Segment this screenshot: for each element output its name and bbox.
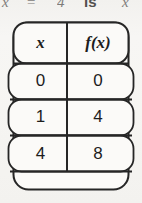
worksheet-figure-crop: x = 4 is x x f(x) 0 0 1 4 — [0, 0, 142, 203]
table-row-box-header — [14, 23, 129, 64]
table-row-box-1 — [9, 64, 134, 100]
function-table — [0, 0, 142, 203]
table-row-box-3 — [9, 136, 134, 172]
table-row-box-2 — [9, 100, 134, 136]
function-table-graphic — [0, 0, 142, 203]
